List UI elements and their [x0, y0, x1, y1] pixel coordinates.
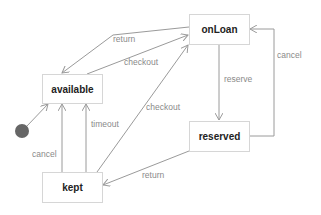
initial-state-dot [15, 124, 29, 138]
state-kept: kept [42, 172, 103, 203]
label-checkout-available-onloan: checkout [124, 57, 158, 67]
label-checkout-kept-onloan: checkout [146, 102, 180, 112]
label-reserve: reserve [224, 74, 252, 84]
state-available-label: available [51, 84, 93, 95]
label-cancel-kept-available: cancel [32, 149, 57, 159]
state-onloan: onLoan [189, 14, 250, 45]
label-return-reserved-kept: return [142, 170, 164, 180]
label-cancel-reserved-onloan: cancel [277, 50, 302, 60]
edge-initial [27, 104, 48, 126]
state-available: available [42, 74, 103, 104]
edge-cancel-reserved-onloan [249, 29, 274, 136]
state-onloan-label: onLoan [201, 24, 237, 35]
state-reserved: reserved [189, 121, 250, 152]
label-timeout: timeout [91, 119, 119, 129]
state-reserved-label: reserved [199, 131, 241, 142]
state-kept-label: kept [62, 182, 83, 193]
label-return-onloan-available: return [113, 34, 135, 44]
edge-checkout-available-onloan [87, 35, 188, 74]
